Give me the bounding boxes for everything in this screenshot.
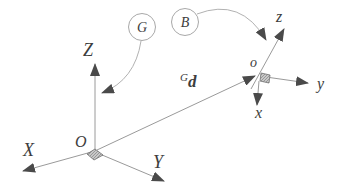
d-vector-superscript: G: [180, 71, 188, 83]
global-y-label: Y: [153, 152, 165, 172]
d-vector: [97, 76, 255, 150]
g-frame-label: G: [137, 20, 147, 35]
body-y-axis: [266, 77, 308, 83]
b-frame-label: B: [181, 15, 190, 30]
body-z-label: z: [275, 8, 283, 25]
body-origin-label: o: [250, 55, 257, 70]
body-x-axis: [257, 81, 259, 105]
global-origin-marker: [87, 149, 103, 160]
body-x-label: x: [254, 104, 262, 121]
d-vector-label: d: [188, 72, 197, 91]
coordinate-frames-diagram: G B Z X Y O o z y x G d: [0, 0, 341, 193]
global-z-label: Z: [83, 40, 94, 60]
body-origin-marker: [260, 73, 270, 83]
global-origin-label: O: [75, 133, 87, 150]
b-leader-arrow: [197, 9, 266, 40]
diagram-canvas: G B Z X Y O o z y x G d: [0, 0, 341, 193]
g-leader-arrow: [102, 41, 141, 93]
global-x-label: X: [22, 140, 35, 160]
body-y-label: y: [315, 75, 325, 93]
